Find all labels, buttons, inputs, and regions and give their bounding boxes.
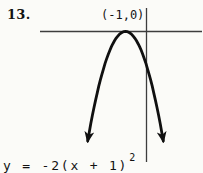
textbook-figure: 13. (-1,0) y = -2(x + 1)2 <box>0 0 203 173</box>
parabola-curve <box>88 32 164 142</box>
problem-number: 13. <box>7 7 31 22</box>
equation-label: y = -2(x + 1)2 <box>3 156 135 173</box>
equation-exponent: 2 <box>129 152 135 163</box>
vertex-coordinate-label: (-1,0) <box>101 8 144 22</box>
graph-canvas <box>0 0 203 173</box>
equation-base: y = -2(x + 1) <box>3 158 128 173</box>
